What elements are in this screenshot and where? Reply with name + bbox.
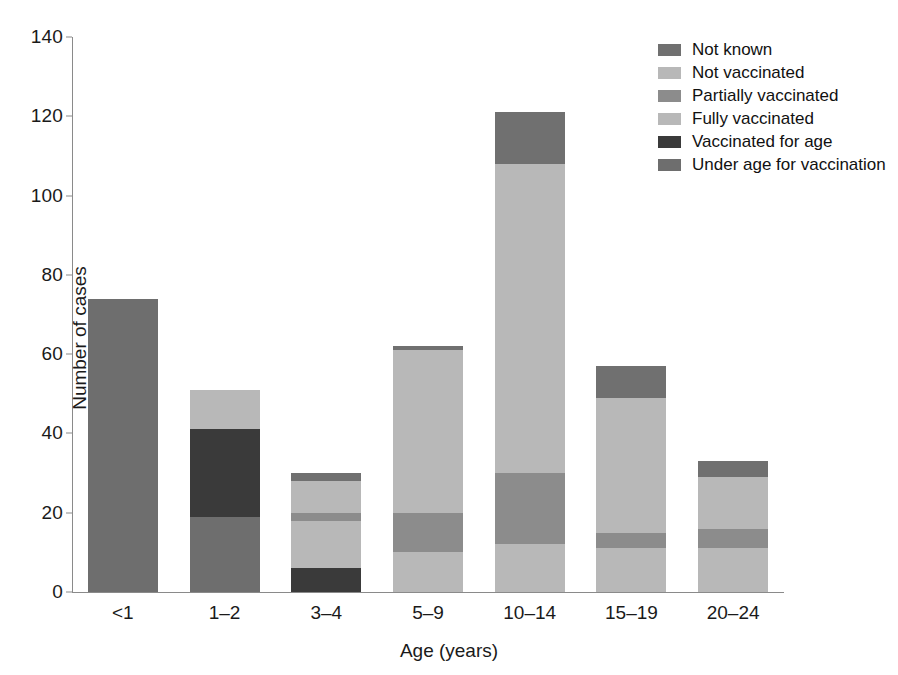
bar-group[interactable] (596, 37, 666, 592)
stacked-bar[interactable] (393, 346, 463, 592)
stacked-bar[interactable] (190, 390, 260, 592)
bar-segment[interactable] (495, 473, 565, 544)
x-axis-line (72, 592, 784, 593)
bar-segment[interactable] (393, 346, 463, 350)
legend-item-label: Under age for vaccination (692, 156, 886, 173)
x-axis-tick-label: 5–9 (412, 602, 444, 624)
bar-group[interactable] (291, 37, 361, 592)
bar-segment[interactable] (596, 366, 666, 398)
bar-segment[interactable] (596, 398, 666, 533)
bar-segment[interactable] (698, 461, 768, 477)
y-axis-tick-mark (66, 512, 72, 513)
legend-item[interactable]: Partially vaccinated (658, 84, 894, 107)
stacked-bar[interactable] (88, 299, 158, 592)
legend-swatch-icon (658, 159, 681, 171)
bar-segment[interactable] (596, 548, 666, 592)
bar-segment[interactable] (291, 513, 361, 521)
y-axis-tick-mark (66, 195, 72, 196)
y-axis-tick-mark (66, 354, 72, 355)
bar-segment[interactable] (88, 299, 158, 592)
bar-group[interactable] (190, 37, 260, 592)
y-axis-tick-mark (66, 116, 72, 117)
y-axis-tick-mark (66, 592, 72, 593)
legend-item-label: Partially vaccinated (692, 87, 838, 104)
bar-segment[interactable] (495, 112, 565, 164)
bar-segment[interactable] (698, 529, 768, 549)
x-axis-tick-label: 10–14 (503, 602, 556, 624)
bar-segment[interactable] (393, 552, 463, 592)
bar-segment[interactable] (190, 390, 260, 430)
x-axis-tick-label: <1 (112, 602, 134, 624)
legend-item[interactable]: Not known (658, 38, 894, 61)
stacked-bar[interactable] (698, 461, 768, 592)
legend-item-label: Fully vaccinated (692, 110, 814, 127)
bar-group[interactable] (393, 37, 463, 592)
bar-segment[interactable] (291, 521, 361, 569)
stacked-bar[interactable] (291, 473, 361, 592)
x-axis-tick-label: 1–2 (209, 602, 241, 624)
stacked-bar[interactable] (495, 112, 565, 592)
legend-swatch-icon (658, 90, 681, 102)
bar-segment[interactable] (393, 350, 463, 513)
bar-segment[interactable] (495, 164, 565, 473)
legend-item-label: Not known (692, 41, 772, 58)
legend-item[interactable]: Fully vaccinated (658, 107, 894, 130)
x-axis-tick-label: 20–24 (707, 602, 760, 624)
bar-segment[interactable] (291, 481, 361, 513)
legend-swatch-icon (658, 113, 681, 125)
bar-segment[interactable] (190, 517, 260, 592)
bar-group[interactable] (88, 37, 158, 592)
bar-segment[interactable] (698, 548, 768, 592)
y-axis-tick-mark (66, 433, 72, 434)
legend-item[interactable]: Not vaccinated (658, 61, 894, 84)
legend: Not knownNot vaccinatedPartially vaccina… (658, 38, 894, 176)
x-axis-title: Age (years) (0, 640, 898, 662)
bar-group[interactable] (495, 37, 565, 592)
stacked-bar[interactable] (596, 366, 666, 592)
legend-item-label: Not vaccinated (692, 64, 804, 81)
bar-segment[interactable] (393, 513, 463, 553)
bar-segment[interactable] (291, 568, 361, 592)
y-axis-tick-mark (66, 274, 72, 275)
legend-swatch-icon (658, 67, 681, 79)
legend-swatch-icon (658, 44, 681, 56)
bar-segment[interactable] (596, 533, 666, 549)
x-axis-tick-label: 3–4 (310, 602, 342, 624)
y-axis-tick-mark (66, 37, 72, 38)
bar-segment[interactable] (291, 473, 361, 481)
legend-item-label: Vaccinated for age (692, 133, 833, 150)
chart-page: Number of cases Age (years) 020406080100… (0, 0, 898, 675)
legend-item[interactable]: Under age for vaccination (658, 153, 894, 176)
legend-item[interactable]: Vaccinated for age (658, 130, 894, 153)
legend-swatch-icon (658, 136, 681, 148)
bar-segment[interactable] (190, 429, 260, 516)
x-axis-tick-label: 15–19 (605, 602, 658, 624)
bar-segment[interactable] (698, 477, 768, 529)
bar-segment[interactable] (495, 544, 565, 592)
